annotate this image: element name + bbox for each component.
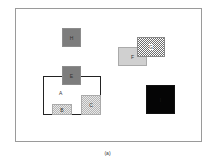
shape-g: G [137,37,165,57]
shape-h-label: H [69,35,74,41]
shape-b-label: B [60,107,64,113]
shape-e-label: E [69,73,73,79]
figure-caption: (a) [0,150,215,156]
shape-f-label: F [130,54,134,60]
shape-h: H [62,28,81,47]
shape-c-label: C [89,102,94,108]
shape-g-label: G [149,44,154,50]
shape-c: C [81,95,101,115]
shape-a-label: A [59,90,62,96]
shape-e: E [62,66,81,85]
shape-i: I [146,85,175,114]
diagram-frame [15,8,202,142]
shape-i-label: I [159,97,161,103]
shape-b: B [52,104,72,115]
